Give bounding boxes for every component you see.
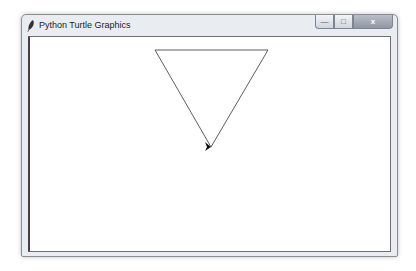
turtle-arrow-icon (205, 142, 211, 151)
drawing-layer (0, 0, 416, 271)
triangle-drawing (155, 50, 268, 147)
